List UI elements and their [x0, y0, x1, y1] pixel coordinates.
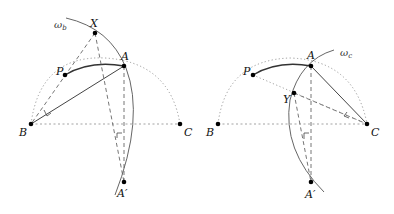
geometry-diagram: X A P B C A′ ωb: [0, 0, 394, 214]
point-c: [178, 122, 183, 127]
arc-p-a: [65, 64, 124, 75]
label-c: C: [184, 126, 193, 139]
circle-omega-b: [66, 18, 133, 195]
label-a: A: [120, 50, 129, 63]
label-p: P: [55, 65, 64, 78]
dashed-x-b: [31, 33, 95, 124]
point-aprime: [122, 180, 127, 185]
circle-omega-c: [289, 50, 334, 192]
label-omega-c: ωc: [340, 47, 352, 60]
label-c: C: [371, 126, 380, 139]
label-x: X: [89, 17, 99, 30]
point-a: [122, 64, 127, 69]
left-figure: X A P B C A′ ωb: [18, 17, 193, 200]
point-b: [29, 122, 34, 127]
point-c: [365, 122, 370, 127]
label-aprime: A′: [304, 188, 316, 201]
label-y: Y: [283, 93, 292, 106]
right-angle-mark-a: [304, 133, 309, 139]
label-omega-b: ωb: [54, 19, 67, 32]
right-figure: A P Y B C A′ ωc: [205, 47, 380, 201]
dotted-arc-bac: [31, 58, 180, 124]
point-y: [292, 91, 297, 96]
dashed-y-aprime: [294, 93, 311, 182]
arc-p-a: [253, 64, 311, 75]
label-aprime: A′: [116, 187, 128, 200]
label-p: P: [242, 65, 251, 78]
segment-a-c: [311, 66, 367, 124]
label-a: A: [306, 49, 315, 62]
label-b: B: [205, 126, 214, 139]
point-a: [309, 64, 314, 69]
point-b: [216, 122, 221, 127]
point-aprime: [309, 180, 314, 185]
point-x: [93, 31, 98, 36]
point-p: [251, 73, 256, 78]
right-angle-mark-a: [117, 133, 122, 138]
label-b: B: [18, 126, 27, 139]
segment-b-a: [31, 66, 124, 124]
